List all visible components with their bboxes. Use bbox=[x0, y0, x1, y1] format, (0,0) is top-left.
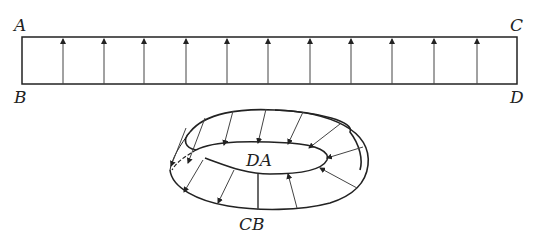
arrow-icon bbox=[288, 112, 303, 144]
flat-strip: A C B D bbox=[12, 15, 524, 107]
diagram-canvas: A C B D DA bbox=[0, 0, 539, 241]
arrow-icon bbox=[218, 170, 234, 203]
arrow-icon bbox=[171, 128, 186, 166]
label-b: B bbox=[13, 87, 27, 107]
arrow-icon bbox=[224, 111, 233, 145]
arrow-icon bbox=[288, 174, 297, 208]
arrow-icon bbox=[184, 160, 203, 192]
label-cb: CB bbox=[239, 214, 265, 234]
mobius-outer-edge bbox=[190, 110, 361, 170]
arrow-icon bbox=[320, 168, 357, 188]
label-a: A bbox=[12, 15, 26, 35]
arrow-icon bbox=[309, 124, 340, 148]
strip-arrows bbox=[63, 39, 477, 84]
label-da: DA bbox=[245, 150, 272, 170]
arrow-icon bbox=[327, 147, 363, 158]
strip-rectangle bbox=[22, 37, 517, 84]
mobius-left-edge bbox=[170, 132, 190, 170]
label-d: D bbox=[509, 87, 524, 107]
mobius-bottom-edge bbox=[170, 165, 368, 209]
arrow-icon bbox=[258, 109, 266, 143]
label-c: C bbox=[510, 15, 523, 35]
